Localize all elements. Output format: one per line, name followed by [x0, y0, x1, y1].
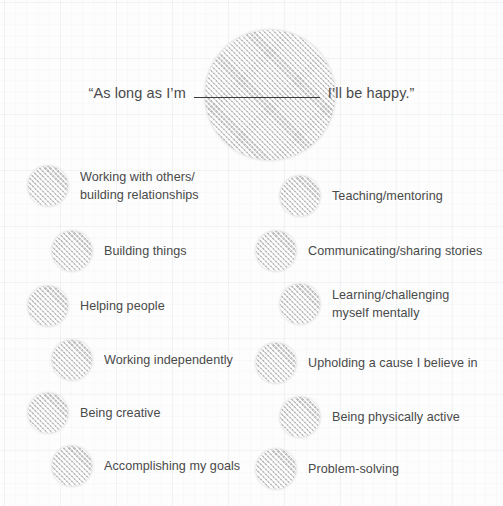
option-circle[interactable]: [52, 446, 92, 486]
option-item[interactable]: Being creative: [28, 393, 161, 433]
option-item[interactable]: Teaching/mentoring: [280, 176, 443, 216]
option-item[interactable]: Problem-solving: [256, 449, 399, 489]
option-item[interactable]: Communicating/sharing stories: [256, 231, 482, 271]
quote-row: “As long as I’m I’ll be happy.”: [0, 82, 503, 104]
quote-suffix-text: I’ll be happy.”: [328, 85, 415, 101]
option-item[interactable]: Being physically active: [280, 397, 460, 437]
option-circle[interactable]: [256, 343, 296, 383]
option-item[interactable]: Learning/challenging myself mentally: [280, 284, 449, 324]
option-item[interactable]: Upholding a cause I believe in: [256, 343, 478, 383]
option-item[interactable]: Working independently: [52, 340, 233, 380]
quote-blank-fill-in[interactable]: [194, 85, 320, 98]
option-label: Communicating/sharing stories: [308, 242, 482, 261]
option-label: Building things: [104, 242, 187, 261]
quote-prefix-text: “As long as I’m: [88, 85, 185, 101]
option-label: Problem-solving: [308, 460, 399, 479]
option-label: Teaching/mentoring: [332, 187, 443, 206]
option-item[interactable]: Building things: [52, 231, 187, 271]
worksheet: “As long as I’m I’ll be happy.” Working …: [0, 0, 503, 506]
option-label: Upholding a cause I believe in: [308, 354, 478, 373]
option-label: Working independently: [104, 351, 233, 370]
option-circle[interactable]: [52, 231, 92, 271]
option-circle[interactable]: [280, 176, 320, 216]
option-circle[interactable]: [28, 393, 68, 433]
option-label: Learning/challenging myself mentally: [332, 286, 449, 323]
option-item[interactable]: Helping people: [28, 286, 165, 326]
option-item[interactable]: Accomplishing my goals: [52, 446, 240, 486]
option-circle[interactable]: [52, 340, 92, 380]
option-label: Being creative: [80, 404, 161, 423]
option-label: Helping people: [80, 297, 165, 316]
option-circle[interactable]: [280, 284, 320, 324]
option-label: Accomplishing my goals: [104, 457, 240, 476]
quote-header: “As long as I’m I’ll be happy.”: [0, 0, 503, 165]
option-circle[interactable]: [256, 449, 296, 489]
option-circle[interactable]: [280, 397, 320, 437]
option-circle[interactable]: [28, 286, 68, 326]
options-column-right: Teaching/mentoring Communicating/sharing…: [251, 165, 502, 506]
option-label: Being physically active: [332, 408, 460, 427]
option-circle[interactable]: [28, 166, 68, 206]
options-column-left: Working with others/ building relationsh…: [0, 165, 251, 506]
option-circle[interactable]: [256, 231, 296, 271]
option-item[interactable]: Working with others/ building relationsh…: [28, 166, 199, 206]
option-label: Working with others/ building relationsh…: [80, 168, 199, 205]
options-columns: Working with others/ building relationsh…: [0, 165, 503, 506]
